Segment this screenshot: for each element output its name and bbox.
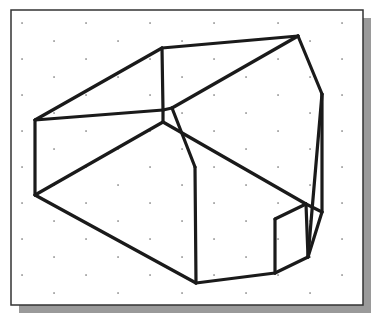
grid-dot [341,130,342,131]
grid-dot [277,94,278,95]
grid-dot [341,238,342,239]
grid-dot [117,184,118,185]
grid-dot [21,166,22,167]
grid-dot [341,22,342,23]
grid-dot [117,76,118,77]
grid-dot [149,274,150,275]
grid-dot [21,22,22,23]
grid-dot [181,76,182,77]
drawing-frame [11,10,363,305]
grid-dot [245,112,246,113]
grid-dot [309,112,310,113]
grid-dot [213,130,214,131]
grid-dot [309,76,310,77]
grid-dot [117,40,118,41]
grid-dot [181,112,182,113]
grid-dot [53,76,54,77]
grid-dot [213,94,214,95]
grid-dot [341,202,342,203]
grid-dot [53,40,54,41]
grid-dot [277,166,278,167]
grid-dot [309,184,310,185]
grid-dot [85,130,86,131]
grid-dot [245,148,246,149]
grid-dot [245,184,246,185]
grid-dot [53,112,54,113]
grid-dot [181,184,182,185]
grid-dot [341,274,342,275]
grid-dot [117,256,118,257]
grid-dot [149,238,150,239]
grid-dot [149,202,150,203]
edge-IJ [195,167,196,283]
grid-dot [213,58,214,59]
grid-dot [21,130,22,131]
grid-dot [181,148,182,149]
grid-dot [21,202,22,203]
grid-dot [53,148,54,149]
grid-dot [277,202,278,203]
grid-dot [181,40,182,41]
grid-dot [277,274,278,275]
grid-dot [85,58,86,59]
grid-dot [53,256,54,257]
grid-dot [213,238,214,239]
grid-dot [245,220,246,221]
grid-dot [85,238,86,239]
grid-dot [149,94,150,95]
grid-dot [117,220,118,221]
grid-dot [341,94,342,95]
grid-dot [21,58,22,59]
grid-dot [85,94,86,95]
grid-dot [277,238,278,239]
grid-dot [309,40,310,41]
grid-dot [149,58,150,59]
grid-dot [245,292,246,293]
grid-dot [213,202,214,203]
grid-dot [181,220,182,221]
grid-dot [149,166,150,167]
edge-MO [306,204,308,257]
grid-dot [277,58,278,59]
grid-dot [245,256,246,257]
grid-dot [53,220,54,221]
grid-dot [21,274,22,275]
grid-dot [309,292,310,293]
grid-dot [117,292,118,293]
grid-dot [341,166,342,167]
grid-dot [181,256,182,257]
grid-dot [277,22,278,23]
grid-dot [213,166,214,167]
grid-dot [53,292,54,293]
edge-CF [162,48,163,110]
grid-dot [181,292,182,293]
grid-dot [213,22,214,23]
grid-dot [21,238,22,239]
grid-dot [245,76,246,77]
grid-dot [149,22,150,23]
grid-dot [85,274,86,275]
grid-dot [213,274,214,275]
grid-dot [85,22,86,23]
grid-dot [309,148,310,149]
grid-dot [85,202,86,203]
grid-dot [341,58,342,59]
grid-dot [21,94,22,95]
diagram-canvas [0,0,373,321]
grid-dot [277,130,278,131]
